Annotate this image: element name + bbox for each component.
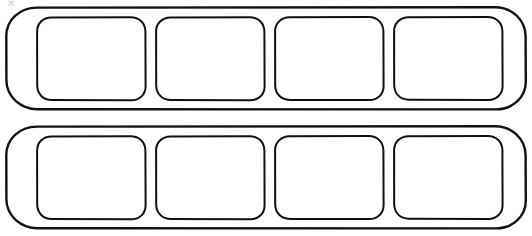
tray-row-1 [6,7,526,109]
cell-row-1-col-3[interactable] [275,17,384,100]
cell-row-1-col-2[interactable] [156,17,265,100]
cell-row-2-col-2[interactable] [156,136,265,219]
capsule-tray-diagram [0,0,532,236]
cell-row-2-col-3[interactable] [275,136,384,219]
cell-row-1-col-4[interactable] [394,17,503,100]
cell-row-1-col-1[interactable] [37,17,146,100]
cell-row-2-col-4[interactable] [394,136,503,219]
scan-speck-artifact [9,1,13,5]
tray-row-2 [6,126,526,228]
cell-row-2-col-1[interactable] [37,136,146,219]
diagram-canvas [0,0,532,236]
